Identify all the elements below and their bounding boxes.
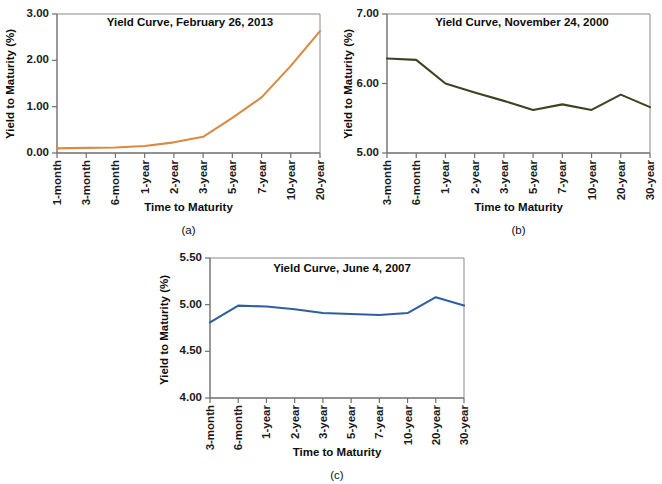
x-tick-label: 3-month: [381, 160, 393, 205]
x-tick-label: 1-year: [139, 159, 151, 193]
chart-c: 4.004.505.005.503-month6-month1-year2-ye…: [152, 244, 512, 484]
panel-caption: (a): [181, 224, 195, 236]
x-tick-label: 30-year: [644, 159, 656, 200]
x-tick-label: 20-year: [430, 404, 442, 445]
y-axis-title: Yield to Maturity (%): [342, 29, 354, 139]
chart-a: 0.001.002.003.001-month3-month6-month1-y…: [0, 0, 340, 242]
x-tick-label: 3-month: [204, 405, 216, 450]
x-tick-label: 5-year: [226, 159, 238, 193]
panel-caption: (b): [511, 224, 525, 236]
x-tick-label: 20-year: [615, 159, 627, 200]
x-axis-title: Time to Maturity: [293, 446, 382, 458]
y-tick-label: 4.00: [180, 391, 202, 403]
x-tick-label: 2-year: [168, 159, 180, 193]
yield-curve-line: [57, 31, 320, 148]
chart-title: Yield Curve, November 24, 2000: [435, 16, 608, 28]
x-tick-label: 3-year: [197, 159, 209, 193]
x-tick-label: 2-year: [289, 404, 301, 438]
x-tick-label: 1-year: [260, 404, 272, 438]
x-tick-label: 3-month: [80, 160, 92, 205]
chart-title: Yield Curve, June 4, 2007: [273, 262, 411, 274]
x-tick-label: 3-year: [317, 404, 329, 438]
y-axis-title: Yield to Maturity (%): [4, 29, 16, 139]
x-axis-title: Time to Maturity: [144, 201, 233, 213]
x-tick-label: 6-month: [109, 160, 121, 205]
panel-a: 0.001.002.003.001-month3-month6-month1-y…: [0, 0, 340, 242]
y-axis-title: Yield to Maturity (%): [158, 275, 170, 385]
chart-b: 5.006.007.003-month6-month1-year2-year3-…: [340, 0, 662, 242]
x-tick-label: 7-year: [256, 159, 268, 193]
x-tick-label: 7-year: [373, 404, 385, 438]
yield-curve-line: [210, 297, 464, 322]
y-tick-label: 6.00: [357, 77, 379, 89]
x-tick-label: 3-year: [498, 159, 510, 193]
x-tick-label: 30-year: [458, 404, 470, 445]
x-tick-label: 6-month: [410, 160, 422, 205]
x-tick-label: 6-month: [232, 405, 244, 450]
y-tick-label: 2.00: [27, 53, 49, 65]
x-axis-title: Time to Maturity: [474, 201, 563, 213]
x-tick-label: 1-month: [51, 160, 63, 205]
x-tick-label: 10-year: [285, 159, 297, 200]
y-tick-label: 1.00: [27, 100, 49, 112]
y-tick-label: 5.50: [180, 251, 202, 263]
y-tick-label: 5.00: [357, 146, 379, 158]
x-tick-label: 7-year: [556, 159, 568, 193]
figure-page: { "figure": { "background_color": "#ffff…: [0, 0, 662, 484]
yield-curve-line: [387, 58, 650, 109]
chart-title: Yield Curve, February 26, 2013: [107, 16, 273, 28]
x-tick-label: 2-year: [469, 159, 481, 193]
y-tick-label: 7.00: [357, 7, 379, 19]
y-tick-label: 5.00: [180, 298, 202, 310]
x-tick-label: 20-year: [314, 159, 326, 200]
x-tick-label: 5-year: [345, 404, 357, 438]
panel-caption: (c): [330, 469, 344, 481]
panel-b: 5.006.007.003-month6-month1-year2-year3-…: [340, 0, 662, 242]
x-tick-label: 10-year: [402, 404, 414, 445]
x-tick-label: 1-year: [439, 159, 451, 193]
y-tick-label: 0.00: [27, 146, 49, 158]
x-tick-label: 10-year: [586, 159, 598, 200]
x-tick-label: 5-year: [527, 159, 539, 193]
y-tick-label: 4.50: [180, 344, 202, 356]
y-tick-label: 3.00: [27, 7, 49, 19]
panel-c: 4.004.505.005.503-month6-month1-year2-ye…: [152, 244, 512, 484]
